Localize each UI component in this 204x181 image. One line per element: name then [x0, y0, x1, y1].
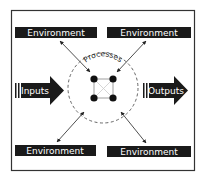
node	[90, 75, 97, 82]
environment-bottom-right: Environment	[107, 146, 191, 157]
environment-label: Environment	[120, 147, 178, 157]
outputs-label: Outputs	[148, 86, 184, 96]
node	[90, 94, 97, 101]
environment-top-right: Environment	[107, 27, 191, 38]
environment-top-left: Environment	[15, 27, 97, 38]
environment-bottom-left: Environment	[15, 145, 96, 156]
environment-label: Environment	[26, 146, 84, 156]
node	[109, 75, 116, 82]
system-diagram: Environment Environment Environment Envi…	[0, 0, 204, 181]
environment-label: Environment	[120, 28, 178, 38]
node	[109, 94, 116, 101]
environment-label: Environment	[27, 28, 85, 38]
inputs-label: Inputs	[21, 86, 49, 96]
process-network	[90, 75, 116, 101]
